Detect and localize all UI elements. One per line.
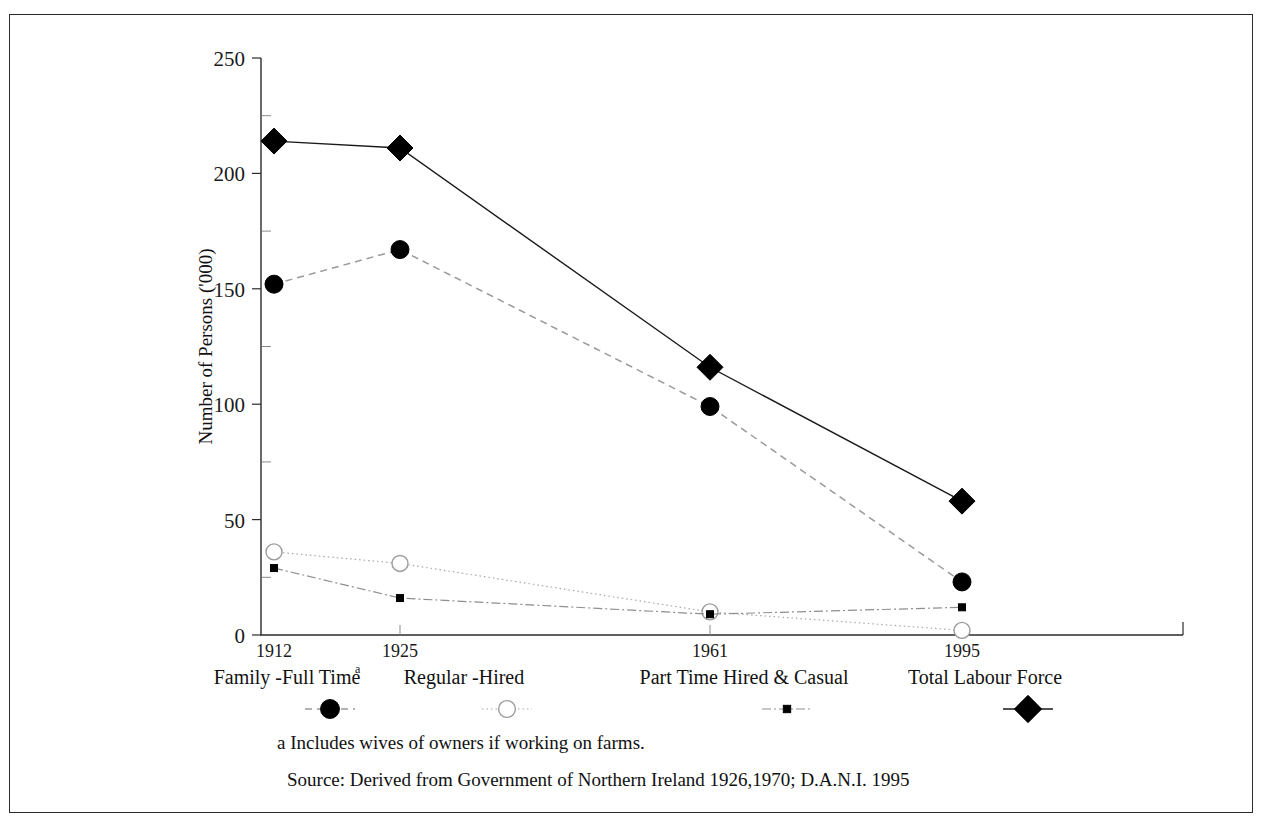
y-axis-tick-label: 250	[214, 47, 246, 71]
marker-filled-circle	[391, 241, 409, 259]
y-axis-title: Number of Persons ('000)	[195, 248, 217, 444]
marker-filled-diamond	[949, 488, 975, 514]
x-axis-tick-label: 1995	[944, 641, 980, 661]
chart-labels: 0501001502002501912192519611995Number of…	[195, 47, 980, 661]
marker-filled-square	[397, 595, 404, 602]
marker-filled-diamond	[1014, 695, 1041, 722]
series-3	[271, 565, 966, 618]
marker-filled-square	[271, 565, 278, 572]
y-axis-tick-label: 100	[214, 393, 246, 417]
legend-label-1: Family -Full Time	[214, 666, 361, 689]
x-axis-tick-label: 1925	[382, 641, 418, 661]
marker-filled-diamond	[261, 128, 287, 154]
marker-filled-circle	[265, 275, 283, 293]
marker-filled-square	[959, 604, 966, 611]
marker-open-circle	[954, 622, 970, 638]
chart-legend: Family -Full TimeaRegular -HiredPart Tim…	[214, 662, 1063, 723]
marker-filled-circle	[321, 700, 340, 719]
series-2	[266, 544, 970, 638]
chart-figure: 0501001502002501912192519611995Number of…	[0, 0, 1262, 829]
marker-filled-diamond	[697, 354, 723, 380]
chart-series	[261, 128, 975, 638]
series-line	[274, 250, 962, 582]
legend-label-4: Total Labour Force	[908, 666, 1062, 688]
line-chart: 0501001502002501912192519611995Number of…	[0, 0, 1262, 829]
x-axis-tick-label: 1961	[692, 641, 728, 661]
series-4	[261, 128, 975, 514]
legend-label-2: Regular -Hired	[404, 666, 525, 689]
series-line	[274, 141, 962, 501]
y-axis-tick-label: 200	[214, 162, 246, 186]
marker-filled-circle	[701, 398, 719, 416]
footnote-text: a Includes wives of owners if working on…	[277, 732, 645, 753]
y-axis-tick-label: 50	[224, 509, 245, 533]
marker-filled-square	[707, 611, 714, 618]
marker-open-circle	[499, 701, 516, 718]
series-line	[274, 552, 962, 630]
x-axis-tick-label: 1912	[256, 641, 292, 661]
marker-filled-square	[783, 705, 790, 712]
marker-open-circle	[266, 544, 282, 560]
marker-filled-diamond	[387, 135, 413, 161]
marker-open-circle	[392, 555, 408, 571]
legend-footnote-marker: a	[355, 662, 361, 676]
chart-notes: a Includes wives of owners if working on…	[277, 732, 910, 790]
y-axis-tick-label: 150	[214, 278, 246, 302]
legend-label-3: Part Time Hired & Casual	[640, 666, 849, 688]
marker-filled-circle	[953, 573, 971, 591]
y-axis-tick-label: 0	[235, 624, 246, 648]
series-line	[274, 568, 962, 614]
source-text: Source: Derived from Government of North…	[287, 769, 910, 790]
series-1	[265, 241, 971, 591]
